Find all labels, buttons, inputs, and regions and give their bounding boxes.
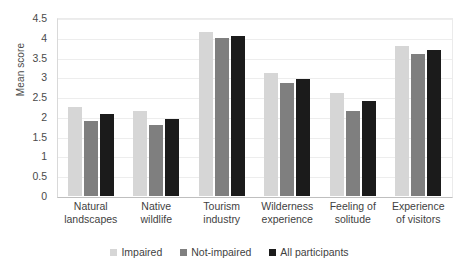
bar [149,125,163,196]
y-axis-tick-label: 3 [0,71,51,83]
bar [199,32,213,196]
y-axis-tick-labels: 4.543.532.521.510.50 [0,18,51,196]
bar-group [189,18,255,196]
bar [346,111,360,196]
bar-groups [58,18,451,196]
bar-group [124,18,190,196]
y-axis-tick-label: 1.5 [0,131,51,143]
y-axis-tick-label: 0 [0,190,51,202]
bar [84,121,98,196]
bar [296,79,310,196]
x-axis-category-label: Natural landscapes [58,200,124,225]
gridline [58,197,452,198]
x-axis-category-label: Wilderness experience [255,200,321,225]
bar [100,114,114,196]
legend-label: Impaired [121,246,162,258]
x-axis-category-label: Native wildlife [124,200,190,225]
legend-item[interactable]: All participants [269,246,348,258]
bar-group [255,18,321,196]
legend-swatch-icon [110,249,117,256]
x-axis-category-labels: Natural landscapesNative wildlifeTourism… [58,200,451,225]
x-axis-category-label: Tourism industry [189,200,255,225]
y-axis-tick-label: 3.5 [0,52,51,64]
bar [231,36,245,196]
bar [165,119,179,196]
bar [280,83,294,196]
bar-group [320,18,386,196]
y-axis-tick-label: 4 [0,32,51,44]
bar [264,73,278,196]
bar-chart: Mean score 4.543.532.521.510.50 Natural … [0,0,459,274]
bar [411,54,425,196]
y-axis-tick-label: 2 [0,111,51,123]
bar-group [58,18,124,196]
bar [330,93,344,196]
y-axis-tick-label: 4.5 [0,12,51,24]
y-axis-tick-label: 0.5 [0,170,51,182]
y-axis-tick-label: 1 [0,150,51,162]
y-axis-tick-label: 2.5 [0,91,51,103]
x-axis-category-label: Experience of visitors [386,200,452,225]
legend-item[interactable]: Not-impaired [180,246,251,258]
legend-swatch-icon [180,249,187,256]
legend-label: All participants [280,246,348,258]
legend-swatch-icon [269,249,276,256]
legend-label: Not-impaired [191,246,251,258]
bar [215,38,229,196]
x-axis-category-label: Feeling of solitude [320,200,386,225]
legend: ImpairedNot-impairedAll participants [0,246,459,258]
legend-item[interactable]: Impaired [110,246,162,258]
bar [395,46,409,196]
bar [133,111,147,196]
bar [362,101,376,196]
bar [427,50,441,196]
bar [68,107,82,196]
bar-group [386,18,452,196]
